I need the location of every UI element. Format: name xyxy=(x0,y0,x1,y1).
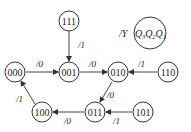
state-node-100: 100 xyxy=(32,102,52,122)
edge-label-000-001: /0 xyxy=(35,59,44,69)
edge-label-110-010: /1 xyxy=(137,59,145,69)
edge-100-000 xyxy=(21,81,35,104)
svg-text:011: 011 xyxy=(88,107,103,118)
svg-text:010: 010 xyxy=(111,67,126,78)
edge-label-111-001: /1 xyxy=(77,40,85,50)
legend: /Y Q3Q2Q1 xyxy=(118,17,166,49)
state-node-011: 011 xyxy=(85,102,105,122)
svg-text:001: 001 xyxy=(62,67,77,78)
legend-state-label: Q3Q2Q1 xyxy=(135,28,166,40)
svg-text:100: 100 xyxy=(35,107,50,118)
svg-text:111: 111 xyxy=(62,16,76,27)
state-node-010: 010 xyxy=(108,62,128,82)
svg-text:101: 101 xyxy=(136,107,151,118)
edge-label-011-100: /0 xyxy=(63,116,72,126)
state-node-111: 111 xyxy=(59,11,79,31)
edge-label-101-011: /1 xyxy=(112,116,120,126)
edge-label-010-011: /0 xyxy=(106,90,115,100)
state-diagram: /1 /0 /0 /1 /0 /1 /0 /1 111 000 001 010 xyxy=(0,0,191,132)
svg-text:000: 000 xyxy=(8,67,23,78)
state-node-101: 101 xyxy=(133,102,153,122)
svg-text:110: 110 xyxy=(161,67,176,78)
edge-label-001-010: /0 xyxy=(88,59,97,69)
state-node-001: 001 xyxy=(59,62,79,82)
edge-label-100-000: /1 xyxy=(15,94,23,104)
legend-output-label: /Y xyxy=(118,28,129,39)
state-node-000: 000 xyxy=(5,62,25,82)
state-node-110: 110 xyxy=(158,62,178,82)
